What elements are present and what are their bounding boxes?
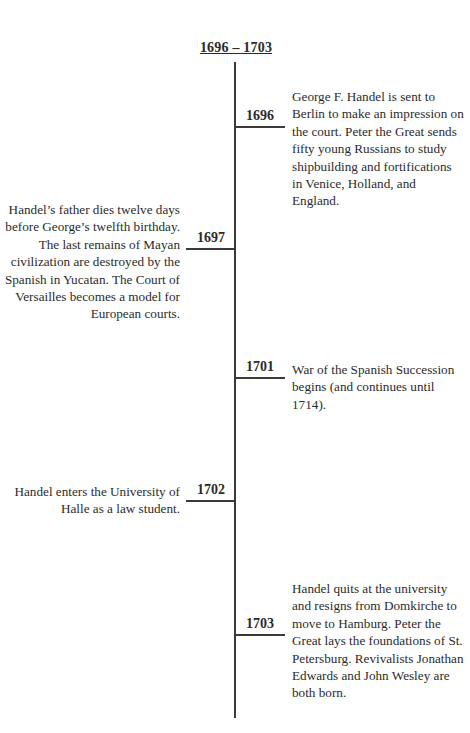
timeline-tick <box>235 377 285 379</box>
event-description: Handel’s father dies twelve days before … <box>0 201 180 323</box>
year-label: 1702 <box>186 482 236 498</box>
year-label: 1701 <box>235 359 285 375</box>
event-description: Handel enters the University of Halle as… <box>0 483 180 518</box>
timeline-title: 1696 – 1703 <box>181 40 291 56</box>
timeline-tick <box>235 634 285 636</box>
year-label: 1697 <box>186 230 236 246</box>
event-description: Handel quits at the university and resig… <box>292 580 464 702</box>
timeline-tick <box>186 248 235 250</box>
event-description: War of the Spanish Succession begins (an… <box>292 361 464 413</box>
event-description: George F. Handel is sent to Berlin to ma… <box>292 88 464 210</box>
timeline-tick <box>235 126 285 128</box>
year-label: 1696 <box>235 108 285 124</box>
year-label: 1703 <box>235 616 285 632</box>
timeline-tick <box>186 500 235 502</box>
